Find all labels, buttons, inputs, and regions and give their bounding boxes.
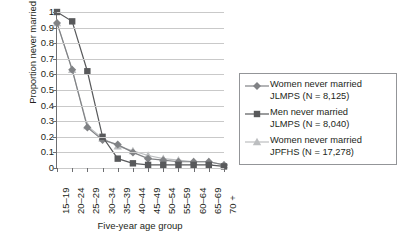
x-tick-label: 55–59 bbox=[182, 188, 192, 214]
y-tick-mark bbox=[53, 28, 57, 29]
y-tick-mark bbox=[53, 106, 57, 107]
x-tick-label: 15–19 bbox=[61, 188, 71, 214]
legend-item-label: Women never married JLMPS (N = 8,125) bbox=[270, 79, 362, 102]
y-tick-label: 0.2 bbox=[28, 132, 54, 142]
gridline bbox=[57, 137, 224, 138]
y-tick-mark bbox=[53, 152, 57, 153]
series-line bbox=[57, 23, 224, 165]
legend-item: Men never married JLMPS (N = 8,040) bbox=[244, 107, 392, 130]
chart-legend: Women never married JLMPS (N = 8,125)Men… bbox=[239, 73, 397, 165]
data-point-marker bbox=[115, 155, 121, 161]
x-tick-label: 20–24 bbox=[76, 188, 86, 214]
x-tick-label: 60–64 bbox=[198, 188, 208, 214]
legend-item: Women never married JLMPS (N = 8,125) bbox=[244, 79, 392, 102]
x-tick-label: 25–29 bbox=[91, 188, 101, 214]
y-tick-mark bbox=[53, 74, 57, 75]
x-tick-label: 50–54 bbox=[167, 188, 177, 214]
gridline bbox=[57, 12, 224, 13]
chart-figure: Proportion never married 00.10.20.30.40.… bbox=[0, 0, 401, 239]
plot-area bbox=[57, 12, 224, 168]
y-tick-label: 0.7 bbox=[28, 54, 54, 64]
y-tick-label: 0.4 bbox=[28, 101, 54, 111]
y-tick-label: 0.6 bbox=[28, 69, 54, 79]
gridline bbox=[57, 43, 224, 44]
y-tick-mark bbox=[53, 121, 57, 122]
x-tick-label: 45–49 bbox=[152, 188, 162, 214]
y-tick-mark bbox=[53, 12, 57, 13]
y-tick-label: 0.8 bbox=[28, 38, 54, 48]
x-tick-label: 65–69 bbox=[213, 188, 223, 214]
y-tick-label: 0.5 bbox=[28, 85, 54, 95]
y-tick-label: 1 bbox=[28, 7, 54, 17]
y-tick-label: 0.3 bbox=[28, 116, 54, 126]
y-tick-label: 0.9 bbox=[28, 23, 54, 33]
gridline bbox=[57, 59, 224, 60]
x-tick-label: 70 + bbox=[228, 195, 238, 214]
x-axis-title: Five-year age group bbox=[40, 220, 240, 231]
y-tick-mark bbox=[53, 137, 57, 138]
diamond-marker-icon bbox=[244, 80, 270, 92]
gridline bbox=[57, 152, 224, 153]
y-tick-label: 0 bbox=[28, 163, 54, 173]
y-axis-tick-labels: 00.10.20.30.40.50.60.70.80.91 bbox=[28, 6, 54, 174]
x-tick-label: 40–44 bbox=[137, 188, 147, 214]
gridline bbox=[57, 121, 224, 122]
legend-item-label: Men never married JLMPS (N = 8,040) bbox=[270, 107, 349, 130]
gridline bbox=[57, 90, 224, 91]
gridline bbox=[57, 74, 224, 75]
x-tick-label: 30–34 bbox=[107, 188, 117, 214]
legend-item: Women never married JPFHS (N = 17,278) bbox=[244, 135, 392, 158]
y-tick-mark bbox=[53, 59, 57, 60]
legend-item-label: Women never married JPFHS (N = 17,278) bbox=[270, 135, 362, 158]
triangle-marker-icon bbox=[244, 136, 270, 148]
y-tick-mark bbox=[53, 90, 57, 91]
x-axis-tick-labels: 15–1920–2425–2930–3435–3940–4445–4950–54… bbox=[57, 172, 232, 218]
gridline bbox=[57, 28, 224, 29]
y-tick-label: 0.1 bbox=[28, 147, 54, 157]
data-point-marker bbox=[69, 18, 75, 24]
gridline bbox=[57, 168, 224, 169]
y-tick-mark bbox=[53, 43, 57, 44]
gridline bbox=[57, 106, 224, 107]
square-marker-icon bbox=[244, 108, 270, 120]
x-tick-label: 35–39 bbox=[122, 188, 132, 214]
series-line bbox=[57, 23, 224, 165]
data-point-marker bbox=[130, 160, 136, 166]
